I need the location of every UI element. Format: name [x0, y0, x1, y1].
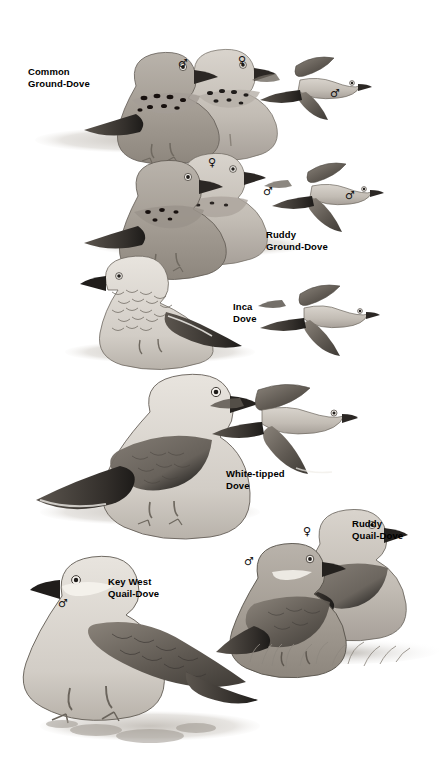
illustration-plate: Common Ground-Dove Ruddy Ground-Dove Inc… [0, 0, 442, 765]
sex-symbol-male: ♂ [244, 556, 254, 567]
common-ground-dove-flight [252, 57, 372, 120]
species-label-inca-dove: Inca Dove [233, 301, 257, 324]
sex-symbol-male: ♂ [263, 186, 273, 197]
sex-symbol-female: ♀ [238, 55, 246, 66]
sex-symbol-female: ♀ [303, 526, 311, 537]
species-label-white-tipped-dove: White-tipped Dove [226, 468, 285, 491]
ruddy-ground-dove-flight [264, 163, 384, 232]
ruddy-quail-dove-group [216, 509, 440, 677]
inca-dove-flight [258, 285, 380, 356]
species-label-common-ground-dove: Common Ground-Dove [28, 66, 90, 89]
plate-artwork [0, 0, 442, 765]
species-label-key-west-quail-dove: Key West Quail-Dove [108, 576, 159, 599]
sex-symbol-male: ♂ [330, 88, 340, 99]
sex-symbol-female: ♀ [208, 157, 216, 168]
sex-symbol-male: ♂ [58, 598, 68, 609]
sex-symbol-male: ♂ [178, 58, 188, 69]
inca-dove-group [65, 256, 380, 369]
ruddy-quail-dove-male-perched [216, 543, 346, 677]
white-tipped-dove-group [36, 374, 358, 539]
species-label-ruddy-quail-dove: Ruddy Quail-Dove [352, 518, 403, 541]
species-label-ruddy-ground-dove: Ruddy Ground-Dove [266, 229, 328, 252]
sex-symbol-male: ♂ [345, 190, 355, 201]
